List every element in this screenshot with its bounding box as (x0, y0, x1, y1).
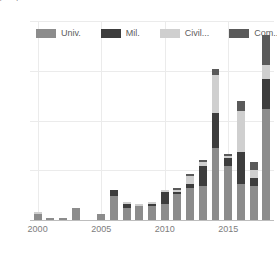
bar-2001 (46, 218, 54, 220)
x-tick-label: 2005 (91, 224, 111, 234)
legend-swatch-icon (229, 29, 249, 38)
bar-2006 (110, 190, 118, 220)
bar-2008 (135, 204, 143, 220)
legend-label: Com... (254, 28, 277, 38)
bar-2005 (97, 214, 105, 220)
y-gridline (30, 71, 274, 72)
bar-segment-univ (34, 214, 42, 220)
bar-2003 (72, 208, 80, 220)
bar-2009 (148, 202, 156, 220)
bar-segment-univ (250, 186, 258, 220)
legend-item-civil[interactable]: Civil... (160, 28, 210, 38)
bar-segment-mil (224, 158, 232, 166)
plot-area: 2000200520102015 (30, 21, 274, 220)
bar-segment-mil (250, 178, 258, 186)
bar-2015 (224, 154, 232, 220)
bar-segment-civil (212, 75, 220, 113)
x-axis-line (30, 220, 274, 221)
chart-screenshot: ⌐ ⌐ 0255075100 2000200520102015 Univ.Mil… (0, 0, 277, 258)
bar-segment-univ (148, 206, 156, 220)
bar-segment-univ (72, 208, 80, 220)
x-tick-label: 2010 (155, 224, 175, 234)
legend-item-com[interactable]: Com... (229, 28, 277, 38)
bar-segment-univ (212, 148, 220, 220)
bar-2016 (237, 101, 245, 220)
cropped-glyphs: ⌐ ⌐ (0, 0, 26, 4)
legend-swatch-icon (160, 29, 180, 38)
bar-2007 (123, 202, 131, 220)
bar-segment-mil (237, 152, 245, 184)
bar-segment-univ (110, 196, 118, 220)
legend-item-mil[interactable]: Mil. (101, 28, 140, 38)
bar-segment-civil (237, 111, 245, 153)
x-gridline (101, 21, 102, 220)
bar-segment-univ (97, 214, 105, 220)
bar-2017 (250, 162, 258, 220)
x-gridline (38, 21, 39, 220)
bar-segment-com (250, 162, 258, 170)
bar-segment-univ (123, 208, 131, 220)
bar-segment-univ (224, 166, 232, 220)
bar-2011 (173, 188, 181, 220)
bar-segment-civil (186, 176, 194, 184)
bar-2010 (161, 190, 169, 220)
bar-2013 (199, 160, 207, 220)
y-gridline (30, 21, 274, 22)
bar-segment-mil (199, 166, 207, 186)
bar-2018 (262, 35, 270, 220)
legend-label: Civil... (185, 28, 210, 38)
bar-2002 (59, 218, 67, 220)
bar-segment-univ (199, 186, 207, 220)
bar-segment-univ (237, 184, 245, 220)
bar-segment-univ (135, 206, 143, 220)
bar-2012 (186, 174, 194, 220)
bar-2000 (34, 212, 42, 220)
bar-segment-mil (161, 192, 169, 204)
bar-segment-univ (186, 188, 194, 220)
chart-legend: Univ.Mil.Civil...Com... (36, 28, 277, 38)
bar-segment-mil (262, 79, 270, 109)
bar-segment-mil (212, 113, 220, 149)
bar-segment-civil (250, 170, 258, 178)
bar-segment-univ (173, 194, 181, 220)
legend-label: Mil. (126, 28, 140, 38)
cropped-text-fragment: ⌐ ⌐ (0, 0, 277, 9)
bar-segment-univ (59, 218, 67, 220)
x-tick-label: 2015 (218, 224, 238, 234)
bar-2014 (212, 69, 220, 220)
bar-segment-com (237, 101, 245, 111)
bar-segment-univ (46, 218, 54, 220)
bar-segment-civil (262, 65, 270, 79)
bar-segment-com (262, 35, 270, 65)
legend-label: Univ. (61, 28, 81, 38)
legend-item-univ[interactable]: Univ. (36, 28, 81, 38)
bar-segment-univ (262, 109, 270, 220)
legend-swatch-icon (101, 29, 121, 38)
legend-swatch-icon (36, 29, 56, 38)
x-tick-label: 2000 (28, 224, 48, 234)
bar-segment-univ (161, 204, 169, 220)
